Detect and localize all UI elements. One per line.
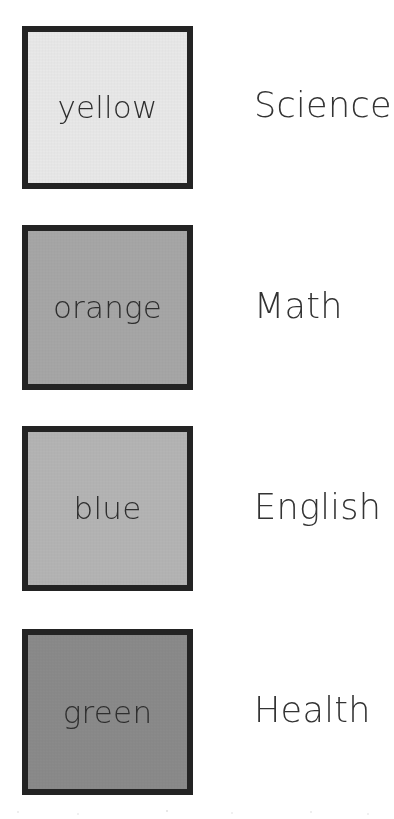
scan-edge-artifact: [0, 806, 394, 819]
color-swatch-orange: orange: [22, 225, 193, 390]
color-swatch-green: green: [22, 629, 193, 795]
color-swatch-blue: blue: [22, 426, 193, 591]
color-swatch-yellow: yellow: [22, 26, 193, 189]
subject-label-english: English: [254, 490, 381, 525]
swatch-color-label: blue: [74, 493, 142, 524]
subject-label-math: Math: [254, 289, 343, 324]
subject-label-science: Science: [254, 88, 392, 123]
swatch-color-label: green: [63, 697, 152, 728]
subject-label-health: Health: [254, 693, 371, 728]
swatch-color-label: orange: [53, 292, 162, 323]
swatch-color-label: yellow: [57, 92, 157, 123]
page-canvas: yellow Science orange Math blue English …: [0, 0, 394, 819]
